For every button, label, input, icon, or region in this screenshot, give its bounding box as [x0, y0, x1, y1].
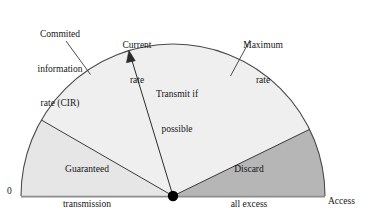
- label-transmit-line2: possible: [140, 124, 214, 136]
- rate-fan-diagram: Commited information rate (CIR) Current …: [0, 0, 365, 213]
- label-guaranteed-line1: Guaranteed: [42, 164, 132, 176]
- label-maximum-rate: Maximum rate: [226, 17, 300, 109]
- label-access-rate: Access rate: [328, 173, 364, 213]
- label-discard-all-excess: Discard all excess: [216, 141, 282, 213]
- label-cir-line3: rate (CIR): [14, 98, 106, 110]
- label-cir-line1: Commited: [14, 29, 106, 41]
- label-guaranteed-transmission: Guaranteed transmission: [42, 141, 132, 213]
- label-access-rate-line1: Access: [328, 196, 364, 208]
- label-guaranteed-line2: transmission: [42, 199, 132, 211]
- label-discard-line2: all excess: [216, 199, 282, 211]
- pivot-dot: [168, 191, 178, 201]
- label-discard-line1: Discard: [216, 164, 282, 176]
- label-transmit-if-possible: Transmit if possible: [140, 66, 214, 158]
- label-maximum-rate-line2: rate: [226, 75, 300, 87]
- label-cir-line2: information: [14, 64, 106, 76]
- label-current-rate-line1: Current: [106, 40, 168, 52]
- label-origin-zero: 0: [7, 186, 19, 198]
- label-committed-information-rate: Commited information rate (CIR): [14, 6, 106, 133]
- label-maximum-rate-line1: Maximum: [226, 40, 300, 52]
- label-transmit-line1: Transmit if: [140, 89, 214, 101]
